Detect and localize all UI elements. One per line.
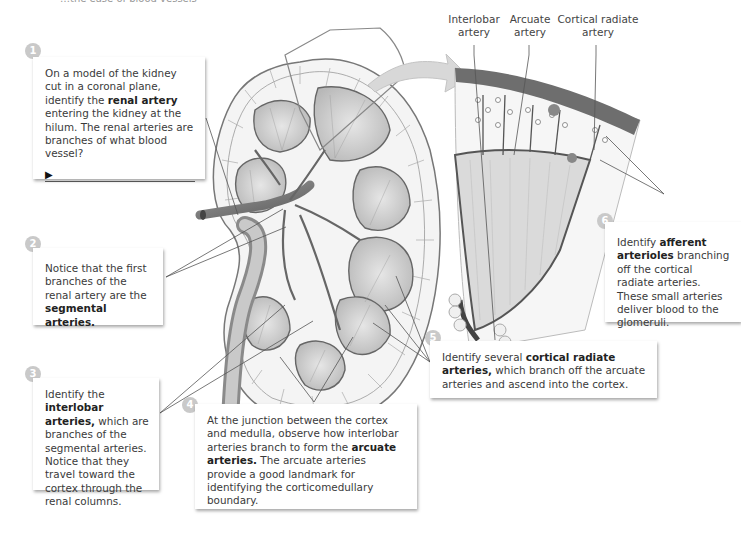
step-text: Identify the bbox=[45, 388, 105, 400]
step-3-callout: Identify the interlobar arteries, which … bbox=[33, 378, 159, 490]
answer-arrow-icon: ▶ bbox=[45, 169, 53, 181]
label-line: artery bbox=[506, 26, 554, 39]
label-line: artery bbox=[553, 26, 643, 39]
step-5-callout: Identify several cortical radiate arteri… bbox=[430, 341, 657, 398]
label-interlobar-artery: Interlobar artery bbox=[448, 13, 500, 38]
answer-field[interactable]: ▶ bbox=[45, 167, 195, 182]
term-renal-artery: renal artery bbox=[108, 94, 178, 106]
label-line: Interlobar bbox=[448, 13, 500, 26]
label-arcuate-artery: Arcuate artery bbox=[506, 13, 554, 38]
label-line: artery bbox=[448, 26, 500, 39]
step-text: Identify several bbox=[442, 351, 526, 363]
step-text: which are branches of the segmental arte… bbox=[45, 415, 149, 507]
step-text: entering the kidney at the hilum. The re… bbox=[45, 107, 193, 159]
term-segmental-arteries: segmental arteries. bbox=[45, 302, 106, 327]
step-6-callout: Identify afferent arterioles branching o… bbox=[605, 222, 741, 322]
label-line: Cortical radiate bbox=[553, 13, 643, 26]
label-line: Arcuate bbox=[506, 13, 554, 26]
step-1-callout: On a model of the kidney cut in a corona… bbox=[33, 57, 205, 179]
step-text: Identify bbox=[617, 236, 660, 248]
step-2-callout: Notice that the first branches of the re… bbox=[33, 248, 163, 325]
step-4-callout: At the junction between the cortex and m… bbox=[195, 404, 417, 509]
step-text: Notice that the first branches of the re… bbox=[45, 262, 147, 301]
label-cortical-radiate-artery: Cortical radiate artery bbox=[553, 13, 643, 38]
